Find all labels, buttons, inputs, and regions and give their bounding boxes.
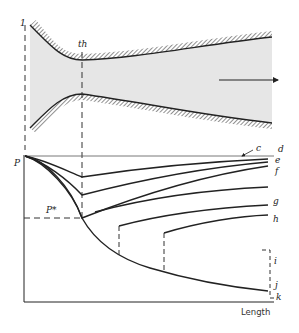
label-d: d [278,144,284,154]
throat-label: th [78,39,87,49]
label-f: f [274,166,280,176]
critical-pressure-label: P* [45,205,57,215]
x-axis-label: Length [241,307,270,317]
label-e: e [275,155,280,165]
nozzle-diagram: 1 th P Length P* c d [0,0,299,333]
curve-h [119,205,268,226]
label-j: j [273,280,278,290]
pressure-plot: P Length P* c d e f g h i j k [13,143,284,317]
label-i: i [274,256,277,266]
label-k: k [276,292,281,302]
y-axis-label: P [13,158,21,168]
inlet-label: 1 [20,18,26,28]
label-g: g [273,196,279,206]
label-h: h [273,214,279,224]
label-c: c [256,143,261,153]
curve-g [82,187,268,218]
label-c-arrow [242,150,253,156]
curve-after-shock [164,215,268,233]
